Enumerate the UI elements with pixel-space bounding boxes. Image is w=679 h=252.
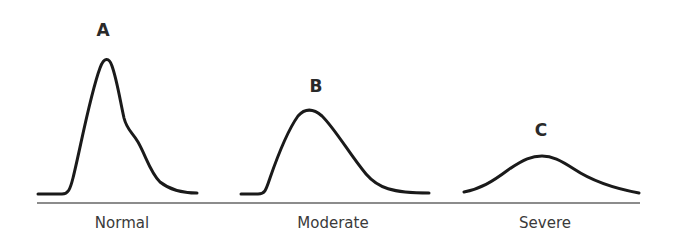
curve-moderate: [241, 110, 429, 194]
category-label-severe: Severe: [519, 214, 571, 232]
curve-normal: [38, 59, 197, 194]
peak-label-a: A: [96, 20, 109, 40]
peak-label-b: B: [310, 76, 323, 96]
category-label-moderate: Moderate: [297, 214, 368, 232]
category-label-normal: Normal: [95, 214, 149, 232]
peak-label-c: C: [535, 120, 547, 140]
curve-severe: [464, 156, 639, 193]
